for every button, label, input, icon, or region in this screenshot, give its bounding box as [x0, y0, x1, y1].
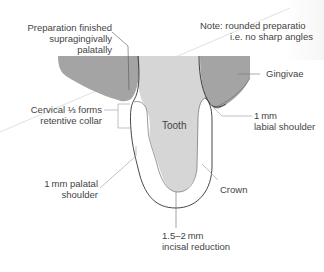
gingiva-left	[58, 56, 139, 101]
label-incisal-reduction: 1.5–2 mm incisal reduction	[162, 230, 230, 252]
label-gingivae: Gingivae	[266, 68, 304, 79]
label-crown: Crown	[220, 184, 247, 195]
label-palatal-shoulder: 1 mm palatal shoulder	[30, 178, 98, 200]
label-labial-shoulder: 1 mm labial shoulder	[254, 110, 315, 132]
leader-cervical	[104, 104, 130, 128]
label-cervical: Cervical ⅓ forms retentive collar	[14, 104, 102, 126]
leader-palatal	[100, 146, 136, 188]
label-prep-finished: Preparation finished supragingivally pal…	[12, 22, 112, 55]
label-note: Note: rounded preparatio i.e. no sharp a…	[200, 20, 313, 42]
label-tooth: Tooth	[162, 120, 186, 131]
